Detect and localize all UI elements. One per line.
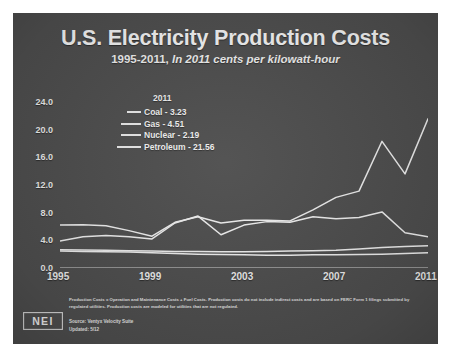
legend-item-label: Gas - 4.51 — [144, 119, 184, 129]
x-axis-labels: 19951999200320072011 — [13, 271, 438, 289]
subtitle-plain: 1995-2011, — [111, 53, 169, 65]
nei-logo: NEI — [23, 311, 63, 331]
subtitle-italic: In 2011 cents per kilowatt-hour — [172, 53, 340, 65]
slide-canvas: U.S. Electricity Production Costs 1995-2… — [13, 13, 438, 344]
legend-item: Gas - 4.51 — [117, 118, 267, 130]
svg-text:NEI: NEI — [32, 315, 54, 327]
source-block: Source: Ventyx Velocity Suite Updated: 5… — [69, 318, 289, 334]
chart-legend: 2011 Coal - 3.23Gas - 4.51Nuclear - 2.19… — [117, 93, 267, 153]
series-line-coal — [60, 246, 428, 252]
legend-item-label: Coal - 3.23 — [144, 107, 187, 117]
source-text: Source: Ventyx Velocity Suite — [69, 318, 289, 326]
legend-line-swatch — [121, 123, 141, 125]
updated-text: Updated: 5/12 — [69, 326, 289, 334]
y-tick-label: 8.0 — [40, 208, 53, 218]
legend-item-label: Nuclear - 2.19 — [144, 130, 199, 140]
x-tick-label: 2011 — [415, 271, 437, 282]
y-tick-label: 16.0 — [35, 152, 53, 162]
legend-line-swatch — [127, 111, 141, 113]
page-title: U.S. Electricity Production Costs — [13, 26, 438, 51]
footnote-text: Production Costs = Operation and Mainten… — [69, 297, 425, 310]
page-subtitle: 1995-2011, In 2011 cents per kilowatt-ho… — [13, 53, 438, 65]
legend-item: Coal - 3.23 — [117, 107, 267, 119]
x-tick-label: 2007 — [323, 271, 345, 282]
series-line-gas — [60, 212, 428, 241]
legend-item: Nuclear - 2.19 — [117, 130, 267, 142]
y-tick-label: 12.0 — [35, 180, 53, 190]
legend-line-swatch — [117, 146, 141, 148]
legend-header: 2011 — [153, 93, 267, 103]
y-tick-label: 24.0 — [35, 97, 53, 107]
x-tick-label: 2003 — [231, 271, 253, 282]
legend-item-label: Petroleum - 21.56 — [144, 142, 214, 152]
y-axis-labels: 0.04.08.012.016.020.024.0 — [13, 88, 58, 284]
y-tick-label: 4.0 — [40, 235, 53, 245]
legend-item: Petroleum - 21.56 — [117, 141, 267, 153]
x-tick-label: 1999 — [139, 271, 161, 282]
x-tick-label: 1995 — [47, 271, 69, 282]
y-tick-label: 20.0 — [35, 125, 53, 135]
nei-logo-mark: NEI — [23, 312, 63, 330]
legend-line-swatch — [121, 134, 141, 136]
legend-rows: Coal - 3.23Gas - 4.51Nuclear - 2.19Petro… — [117, 107, 267, 153]
